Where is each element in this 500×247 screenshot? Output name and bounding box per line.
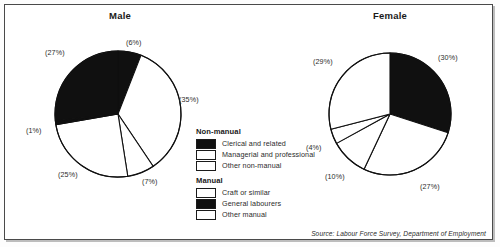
pie-slice xyxy=(55,51,118,121)
legend-swatch-icon xyxy=(196,150,216,160)
chart-title-female: Female xyxy=(330,10,450,21)
source-note: Source: Labour Force Survey, Department … xyxy=(311,230,486,237)
legend-item[interactable]: Craft or similar xyxy=(196,187,316,198)
pie-percent-label: (30%) xyxy=(438,53,458,62)
pie-percent-label: (27%) xyxy=(45,48,65,57)
legend-swatch-icon xyxy=(196,199,216,209)
chart-title-male: Male xyxy=(60,10,180,21)
pie-chart-female xyxy=(326,50,454,178)
legend-swatch-icon xyxy=(196,210,216,220)
pie-percent-label: (1%) xyxy=(26,126,42,135)
pie-percent-label: (6%) xyxy=(126,38,142,47)
pie-percent-label: (25%) xyxy=(58,170,78,179)
legend-item-label: Managerial and professional xyxy=(222,150,315,159)
pie-percent-label: (7%) xyxy=(142,177,158,186)
legend-item[interactable]: Managerial and professional xyxy=(196,149,316,160)
legend-item-label: Other non-manual xyxy=(222,161,282,170)
pie-percent-label: (29%) xyxy=(313,57,333,66)
legend-swatch-icon xyxy=(196,139,216,149)
pie-percent-label: (35%) xyxy=(179,95,199,104)
legend-swatch-icon xyxy=(196,161,216,171)
pie-slice xyxy=(56,114,128,177)
legend-swatch-icon xyxy=(196,188,216,198)
legend-group-title: Non-manual xyxy=(196,127,316,136)
figure-panel: Male Female (6%)(35%)(7%)(25%)(1%)(27%) … xyxy=(0,0,500,247)
chart-legend: Non-manualClerical and relatedManagerial… xyxy=(196,127,316,220)
pie-percent-label: (27%) xyxy=(420,182,440,191)
legend-item[interactable]: General labourers xyxy=(196,198,316,209)
legend-group-title: Manual xyxy=(196,176,316,185)
legend-item-label: Clerical and related xyxy=(222,139,286,148)
pie-percent-label: (10%) xyxy=(325,172,345,181)
legend-item[interactable]: Other manual xyxy=(196,209,316,220)
legend-item[interactable]: Clerical and related xyxy=(196,138,316,149)
legend-item-label: Craft or similar xyxy=(222,188,270,197)
pie-chart-male xyxy=(52,48,184,180)
legend-item-label: General labourers xyxy=(222,199,281,208)
legend-item[interactable]: Other non-manual xyxy=(196,160,316,171)
legend-item-label: Other manual xyxy=(222,210,267,219)
